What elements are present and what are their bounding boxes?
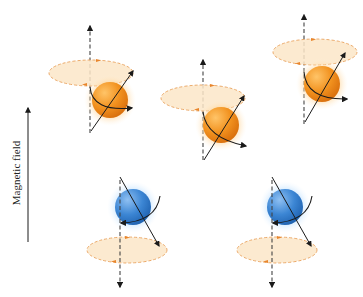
orange-particle-sphere xyxy=(92,82,128,118)
spin-down-panel-1 xyxy=(87,177,167,287)
precession-orbit xyxy=(237,237,317,263)
spin-up-panel-3 xyxy=(273,15,357,124)
spin-up-panel-1 xyxy=(49,26,136,133)
spin-up-panel-2 xyxy=(161,60,247,160)
spin-precession-diagram xyxy=(0,0,363,297)
spin-down-panel-2 xyxy=(237,177,317,287)
magnetic-field-label: Magnetic field xyxy=(9,123,23,223)
precession-orbit xyxy=(87,237,167,263)
